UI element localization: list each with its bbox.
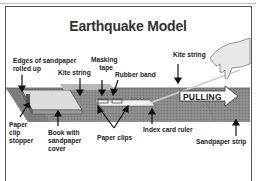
- label-sandpaper-strip: Sandpaper strip: [196, 138, 246, 146]
- masking-tape: [60, 84, 115, 90]
- label-kite-string-right: Kite string: [173, 51, 206, 59]
- hand-icon: [210, 38, 250, 79]
- label-paper-clips: Paper clips: [97, 134, 132, 142]
- label-rubber-band: Rubber band: [115, 71, 156, 79]
- label-index-card-ruler: Index card ruler: [143, 126, 193, 134]
- label-book-with-sandpaper: Book withsandpapercover: [48, 129, 81, 153]
- label-kite-string-left: Kite string: [58, 69, 91, 77]
- pulling-label: PULLING: [183, 92, 222, 102]
- label-paper-clip-stopper: Paperclipstopper: [9, 121, 33, 145]
- earthquake-model-illustration: [0, 0, 256, 181]
- label-masking-tape: Masking tape: [91, 56, 117, 72]
